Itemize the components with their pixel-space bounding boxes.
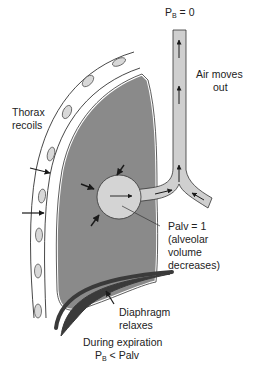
palv-label: Palv = 1 xyxy=(168,220,206,232)
diaphragm-label-2: relaxes xyxy=(119,319,153,331)
expiration-diagram: PB = 0 Air moves out Thorax recoils Palv… xyxy=(0,0,261,371)
pb-top-label: PB = 0 xyxy=(165,6,195,19)
thorax-label: Thorax xyxy=(12,106,45,118)
footer-label: During expiration xyxy=(83,336,163,348)
air-moves-label-2: out xyxy=(213,81,228,93)
diaphragm-label: Diaphragm xyxy=(119,306,171,318)
thorax-recoil-arrow xyxy=(30,168,50,173)
footer-label-2: PB < Palv xyxy=(95,349,140,362)
palv-label-2: (alveolar xyxy=(168,233,209,245)
palv-label-3: volume xyxy=(168,246,202,258)
thorax-label-2: recoils xyxy=(12,119,42,131)
air-moves-label: Air moves xyxy=(196,68,243,80)
palv-label-4: decreases) xyxy=(168,259,220,271)
